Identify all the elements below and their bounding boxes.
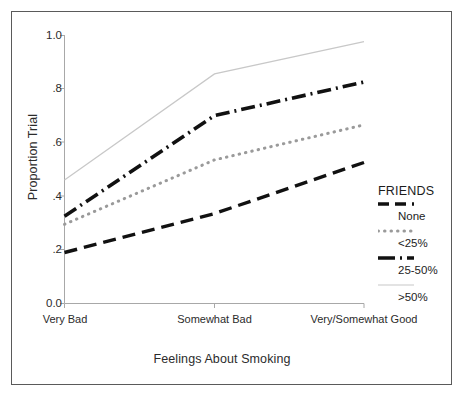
series-line-none — [65, 163, 365, 253]
series-line-lt25 — [65, 125, 365, 224]
y-tick-label-.2: .2 — [28, 243, 62, 255]
legend-swatch-lt25 — [378, 227, 414, 235]
x-tick-label-very-somewhat-good: Very/Somewhat Good — [293, 313, 435, 325]
legend-label-lt25: <25% — [398, 237, 428, 249]
legend-entry-gt50[interactable]: >50% — [378, 281, 452, 308]
legend-label-25-50: 25-50% — [398, 264, 438, 276]
legend-swatch-gt50 — [378, 281, 414, 289]
legend: FRIENDS None <25% 25-50% >50% — [378, 184, 452, 308]
legend-title: FRIENDS — [378, 184, 452, 198]
legend-swatch-25-50 — [378, 254, 414, 262]
legend-label-none: None — [398, 210, 426, 222]
legend-entry-lt25[interactable]: <25% — [378, 227, 452, 254]
y-tick-label-1.0: 1.0 — [28, 29, 62, 41]
x-axis-title: Feelings About Smoking — [92, 352, 352, 366]
legend-entry-none[interactable]: None — [378, 200, 452, 227]
legend-label-gt50: >50% — [398, 291, 428, 303]
x-axis-ticks — [65, 304, 365, 309]
x-tick-label-very-bad: Very Bad — [24, 313, 106, 325]
x-tick-label-somewhat-bad: Somewhat Bad — [158, 313, 271, 325]
chart-screenshot: 1.0 .8 .6 .4 .2 0.0 Very Bad Somewhat Ba… — [0, 0, 464, 398]
y-tick-label-0.0: 0.0 — [28, 297, 62, 309]
series-line-25-50 — [65, 82, 365, 216]
y-axis-title: Proportion Trial — [26, 77, 40, 237]
legend-entry-25-50[interactable]: 25-50% — [378, 254, 452, 281]
legend-swatch-none — [378, 200, 414, 208]
